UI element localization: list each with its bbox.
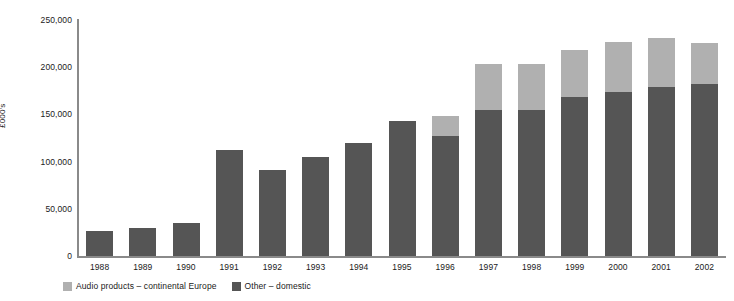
bar-1994 bbox=[345, 143, 372, 256]
bar-segment-other-domestic bbox=[475, 110, 502, 256]
y-axis-tick-label: 150,000 bbox=[14, 109, 72, 119]
x-axis-tick-label-1992: 1992 bbox=[251, 262, 294, 272]
bar-1996 bbox=[432, 116, 459, 256]
x-axis-tick-label-1990: 1990 bbox=[164, 262, 207, 272]
bar-1993 bbox=[302, 157, 329, 256]
legend-swatch-icon bbox=[232, 282, 241, 291]
bar-segment-other-domestic bbox=[345, 143, 372, 256]
y-axis-tick-labels: 050,000100,000150,000200,000250,000 bbox=[8, 0, 72, 301]
bar-segment-other-domestic bbox=[432, 136, 459, 256]
bar-segment-other-domestic bbox=[691, 84, 718, 256]
bar-segment-other-domestic bbox=[129, 228, 156, 256]
bar-1997 bbox=[475, 64, 502, 256]
bar-segment-audio-products-continental-europe bbox=[475, 64, 502, 109]
bar-1991 bbox=[216, 150, 243, 256]
x-axis-tick-label-1995: 1995 bbox=[380, 262, 423, 272]
legend-item-0[interactable]: Audio products – continental Europe bbox=[63, 281, 217, 291]
bar-segment-other-domestic bbox=[86, 231, 113, 256]
y-axis-tick-label: 200,000 bbox=[14, 62, 72, 72]
x-axis-tick-label-2000: 2000 bbox=[596, 262, 639, 272]
bar-2001 bbox=[648, 38, 675, 256]
legend-item-1[interactable]: Other – domestic bbox=[232, 281, 311, 291]
bar-segment-other-domestic bbox=[605, 92, 632, 256]
bar-segment-other-domestic bbox=[216, 150, 243, 256]
bar-2000 bbox=[605, 42, 632, 256]
chart-legend: Audio products – continental EuropeOther… bbox=[63, 281, 311, 291]
x-axis-tick-label-1989: 1989 bbox=[121, 262, 164, 272]
x-axis-tick-label-1998: 1998 bbox=[510, 262, 553, 272]
bar-segment-other-domestic bbox=[302, 157, 329, 256]
bar-segment-audio-products-continental-europe bbox=[605, 42, 632, 92]
bar-segment-other-domestic bbox=[389, 121, 416, 256]
bar-1992 bbox=[259, 170, 286, 256]
y-axis-title: £000's bbox=[0, 103, 7, 128]
bar-1988 bbox=[86, 231, 113, 256]
bar-2002 bbox=[691, 43, 718, 256]
bar-segment-audio-products-continental-europe bbox=[648, 38, 675, 87]
legend-swatch-icon bbox=[63, 282, 72, 291]
bar-segment-audio-products-continental-europe bbox=[691, 43, 718, 85]
y-axis-tick-label: 100,000 bbox=[14, 157, 72, 167]
y-axis-tick-label: 250,000 bbox=[14, 15, 72, 25]
x-axis-tick-label-1994: 1994 bbox=[337, 262, 380, 272]
x-axis-tick-label-1997: 1997 bbox=[467, 262, 510, 272]
y-axis-tick-label: 50,000 bbox=[14, 204, 72, 214]
x-axis-tick-label-1993: 1993 bbox=[294, 262, 337, 272]
legend-label: Audio products – continental Europe bbox=[76, 281, 217, 291]
bar-1999 bbox=[561, 50, 588, 256]
x-axis-tick-label-1991: 1991 bbox=[208, 262, 251, 272]
plot-area bbox=[78, 20, 726, 256]
x-axis-tick-label-1996: 1996 bbox=[424, 262, 467, 272]
bar-chart: £000's 050,000100,000150,000200,000250,0… bbox=[0, 0, 734, 301]
bar-segment-audio-products-continental-europe bbox=[518, 64, 545, 109]
bar-segment-audio-products-continental-europe bbox=[561, 50, 588, 97]
bar-1989 bbox=[129, 228, 156, 256]
bar-segment-other-domestic bbox=[648, 87, 675, 256]
bar-1995 bbox=[389, 121, 416, 256]
bar-1998 bbox=[518, 64, 545, 256]
bar-segment-other-domestic bbox=[518, 110, 545, 256]
bar-segment-other-domestic bbox=[259, 170, 286, 256]
bar-segment-other-domestic bbox=[173, 223, 200, 256]
x-axis-tick-label-2002: 2002 bbox=[683, 262, 726, 272]
bar-segment-audio-products-continental-europe bbox=[432, 116, 459, 136]
legend-label: Other – domestic bbox=[245, 281, 311, 291]
bar-1990 bbox=[173, 223, 200, 256]
y-axis-tick-label: 0 bbox=[14, 251, 72, 261]
x-axis-tick-label-2001: 2001 bbox=[640, 262, 683, 272]
bar-segment-other-domestic bbox=[561, 97, 588, 256]
x-axis-tick-label-1999: 1999 bbox=[553, 262, 596, 272]
x-axis-tick-label-1988: 1988 bbox=[78, 262, 121, 272]
x-axis-line bbox=[77, 256, 726, 258]
